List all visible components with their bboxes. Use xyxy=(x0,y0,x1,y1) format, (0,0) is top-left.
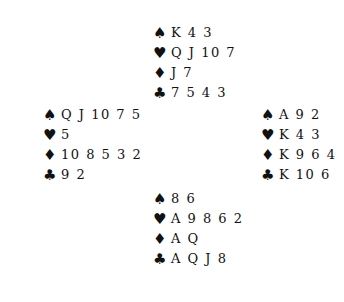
west-hand: ♠Q J 10 7 5 ♥5 ♦10 8 5 3 2 ♣9 2 xyxy=(43,105,142,185)
north-hearts: ♥Q J 10 7 xyxy=(153,43,236,63)
spade-icon: ♠ xyxy=(43,105,61,125)
club-icon: ♣ xyxy=(153,83,171,103)
heart-icon: ♥ xyxy=(153,209,171,229)
diamond-icon: ♦ xyxy=(153,229,171,249)
heart-icon: ♥ xyxy=(261,125,279,145)
heart-icon: ♥ xyxy=(153,43,171,63)
club-icon: ♣ xyxy=(153,249,171,269)
heart-icon: ♥ xyxy=(43,125,61,145)
west-spades: ♠Q J 10 7 5 xyxy=(43,105,142,125)
spade-icon: ♠ xyxy=(153,23,171,43)
north-diamonds: ♦J 7 xyxy=(153,63,236,83)
spade-icon: ♠ xyxy=(261,105,279,125)
west-hearts: ♥5 xyxy=(43,125,142,145)
north-hand: ♠K 4 3 ♥Q J 10 7 ♦J 7 ♣7 5 4 3 xyxy=(153,23,236,103)
north-spades: ♠K 4 3 xyxy=(153,23,236,43)
south-hearts: ♥A 9 8 6 2 xyxy=(153,209,244,229)
south-hand: ♠8 6 ♥A 9 8 6 2 ♦A Q ♣A Q J 8 xyxy=(153,189,244,269)
diamond-icon: ♦ xyxy=(43,145,61,165)
club-icon: ♣ xyxy=(43,165,61,185)
east-hand: ♠A 9 2 ♥K 4 3 ♦K 9 6 4 ♣K 10 6 xyxy=(261,105,336,185)
spade-icon: ♠ xyxy=(153,189,171,209)
club-icon: ♣ xyxy=(261,165,279,185)
east-clubs: ♣K 10 6 xyxy=(261,165,336,185)
diamond-icon: ♦ xyxy=(153,63,171,83)
north-clubs: ♣7 5 4 3 xyxy=(153,83,236,103)
south-clubs: ♣A Q J 8 xyxy=(153,249,244,269)
east-hearts: ♥K 4 3 xyxy=(261,125,336,145)
south-spades: ♠8 6 xyxy=(153,189,244,209)
east-diamonds: ♦K 9 6 4 xyxy=(261,145,336,165)
south-diamonds: ♦A Q xyxy=(153,229,244,249)
diamond-icon: ♦ xyxy=(261,145,279,165)
west-diamonds: ♦10 8 5 3 2 xyxy=(43,145,142,165)
west-clubs: ♣9 2 xyxy=(43,165,142,185)
east-spades: ♠A 9 2 xyxy=(261,105,336,125)
